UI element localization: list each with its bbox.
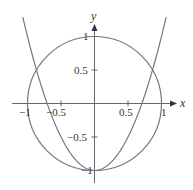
x-tick-label: −1 [19, 106, 31, 118]
chart: −1 −0.5 0.5 1 1 0.5 −0.5 −1 x y [0, 0, 193, 190]
x-axis-label: x [179, 96, 186, 110]
x-tick-label: −0.5 [46, 106, 66, 118]
axes [12, 30, 172, 183]
y-axis-label: y [90, 9, 97, 23]
y-tick-label: −0.5 [67, 131, 87, 143]
y-tick-label: −1 [81, 164, 93, 176]
x-axis-arrow-icon [170, 101, 177, 107]
y-tick-label: 1 [83, 30, 89, 42]
x-tick-label: 0.5 [119, 106, 133, 118]
y-tick-label: 0.5 [74, 64, 88, 76]
x-tick-label: 1 [161, 106, 167, 118]
y-axis-arrow-icon [92, 24, 98, 31]
